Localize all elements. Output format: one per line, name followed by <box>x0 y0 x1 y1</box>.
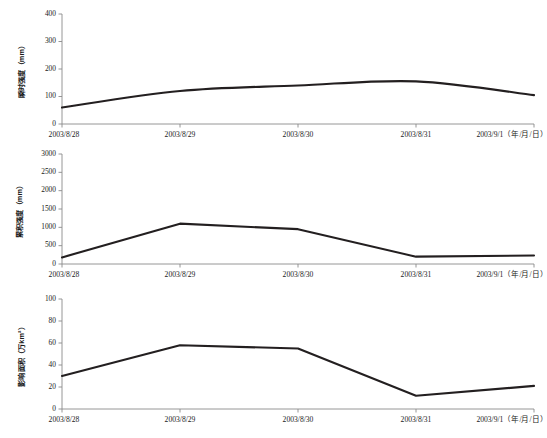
y-tick-label: 500 <box>45 240 56 249</box>
y-axis-label-group-0: 瞬时强度（mm） <box>17 42 26 98</box>
y-tick-label: 60 <box>49 338 57 347</box>
series-line-1 <box>62 224 534 258</box>
y-ticks-2: 020406080100 <box>45 294 62 413</box>
y-tick-label: 3000 <box>41 149 56 158</box>
x-tick-label: 2003/8/31 <box>401 130 432 139</box>
x-tick-label: 2003/8/31 <box>401 415 432 424</box>
series-line-2 <box>62 345 534 396</box>
y-ticks-0: 0100200300400 <box>45 9 62 128</box>
chart-panel-cumulative-intensity: 累积强度（mm） 050010001500200025003000 2003/8… <box>0 140 547 286</box>
x-tick-label: 2003/8/30 <box>283 130 314 139</box>
y-axis-label-group-2: 影响面积（万km²） <box>17 323 26 387</box>
chart-svg-1: 累积强度（mm） 050010001500200025003000 2003/8… <box>0 140 547 286</box>
chart-panel-instant-intensity: 瞬时强度（mm） 0100200300400 2003/8/282003/8/2… <box>0 0 547 146</box>
x-tick-label: 2003/8/29 <box>165 415 196 424</box>
y-tick-label: 40 <box>49 360 57 369</box>
x-tick-label: 2003/8/28 <box>49 415 80 424</box>
y-axis-label-group-1: 累积强度（mm） <box>15 182 24 238</box>
y-tick-label: 1500 <box>41 204 56 213</box>
y-tick-label: 0 <box>52 119 56 128</box>
y-tick-label: 100 <box>45 91 56 100</box>
chart-svg-0: 瞬时强度（mm） 0100200300400 2003/8/282003/8/2… <box>0 0 547 146</box>
x-tick-label: 2003/8/28 <box>49 130 80 139</box>
x-tick-label: 2003/8/29 <box>165 270 196 279</box>
y-tick-label: 400 <box>45 9 56 18</box>
x-tick-label: 2003/9/1（年/月/日） <box>476 269 547 279</box>
x-tick-label: 2003/8/29 <box>165 130 196 139</box>
y-axis-title-1: 累积强度（mm） <box>15 182 24 238</box>
y-axis-title-2: 影响面积（万km²） <box>17 323 26 387</box>
x-tick-label: 2003/8/30 <box>283 415 314 424</box>
y-tick-label: 80 <box>49 316 57 325</box>
y-tick-label: 200 <box>45 64 56 73</box>
y-axis-title-0: 瞬时强度（mm） <box>17 42 26 98</box>
x-ticks-0: 2003/8/282003/8/292003/8/302003/8/312003… <box>49 124 547 139</box>
x-tick-label: 2003/8/30 <box>283 270 314 279</box>
figure-root: 瞬时强度（mm） 0100200300400 2003/8/282003/8/2… <box>0 0 547 438</box>
x-ticks-1: 2003/8/282003/8/292003/8/302003/8/312003… <box>49 264 547 279</box>
chart-panel-affected-area: 影响面积（万km²） 020406080100 2003/8/282003/8/… <box>0 285 547 431</box>
y-tick-label: 1000 <box>41 222 56 231</box>
y-tick-label: 2500 <box>41 167 56 176</box>
y-tick-label: 100 <box>45 294 56 303</box>
x-tick-label: 2003/9/1（年/月/日） <box>476 414 547 424</box>
y-tick-label: 0 <box>52 259 56 268</box>
y-tick-label: 20 <box>49 382 57 391</box>
x-tick-label: 2003/9/1（年/月/日） <box>476 129 547 139</box>
x-ticks-2: 2003/8/282003/8/292003/8/302003/8/312003… <box>49 409 547 424</box>
series-line-0 <box>62 81 534 107</box>
y-tick-label: 300 <box>45 36 56 45</box>
y-ticks-1: 050010001500200025003000 <box>41 149 62 268</box>
y-tick-label: 2000 <box>41 185 56 194</box>
chart-svg-2: 影响面积（万km²） 020406080100 2003/8/282003/8/… <box>0 285 547 431</box>
y-tick-label: 0 <box>52 404 56 413</box>
x-tick-label: 2003/8/28 <box>49 270 80 279</box>
x-tick-label: 2003/8/31 <box>401 270 432 279</box>
